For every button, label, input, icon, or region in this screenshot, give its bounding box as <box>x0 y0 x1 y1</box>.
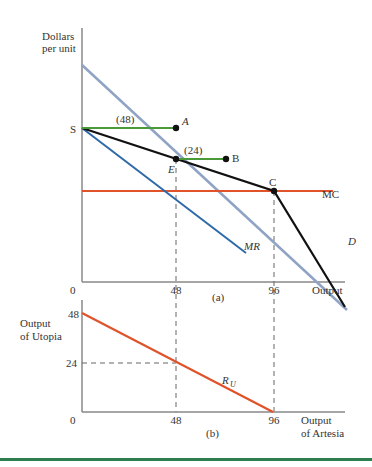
point-b <box>223 156 229 162</box>
tick-48-b-y: 48 <box>68 308 80 320</box>
xlabel-b-line1: Output <box>301 414 332 426</box>
panel-label-a: (a) <box>212 291 225 304</box>
label-c: C <box>269 176 276 188</box>
point-a <box>173 125 179 131</box>
label-e: E <box>167 163 175 175</box>
label-mc: MC <box>322 188 339 200</box>
ylabel-b-line1: Output <box>20 317 51 329</box>
tick-24-b-y: 24 <box>66 357 78 369</box>
tick-0-a: 0 <box>70 284 76 296</box>
tick-96-a: 96 <box>269 284 281 296</box>
tick-48-b: 48 <box>171 414 183 426</box>
ylabel-b-line2: of Utopia <box>20 330 62 342</box>
panel-label-b: (b) <box>206 427 219 440</box>
chart-figure: Dollars per unit S A B E C MC MR D (48) … <box>0 0 372 467</box>
tick-0-b: 0 <box>70 414 76 426</box>
label-mr: MR <box>243 240 260 252</box>
artesia-demand-line <box>82 128 345 307</box>
label-s: S <box>70 123 76 135</box>
footer-rule <box>0 458 372 461</box>
label-seg48: (48) <box>116 113 135 126</box>
label-d: D <box>347 235 356 247</box>
label-ru: R <box>221 374 229 386</box>
tick-48-a: 48 <box>171 284 183 296</box>
xlabel-a: Output <box>312 284 343 296</box>
label-b: B <box>232 152 239 164</box>
point-e <box>173 156 179 162</box>
xlabel-b-line2: of Artesia <box>301 427 344 439</box>
ylabel-a-line2: per unit <box>42 42 76 54</box>
label-a: A <box>181 115 189 127</box>
label-seg24: (24) <box>184 144 203 157</box>
label-ru-sub: U <box>230 380 237 389</box>
ylabel-a-line1: Dollars <box>42 30 74 42</box>
tick-96-b: 96 <box>269 414 281 426</box>
demand-line <box>82 65 347 310</box>
point-c <box>271 188 277 194</box>
